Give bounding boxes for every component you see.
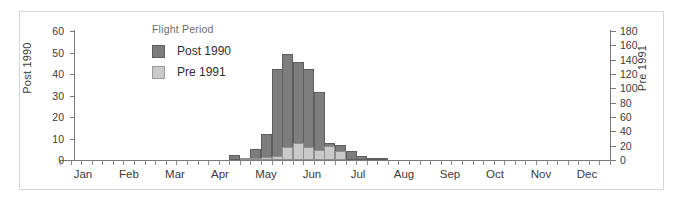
x-axis-tick xyxy=(599,161,600,165)
x-axis-tick xyxy=(557,161,558,165)
legend-item-post-1990[interactable]: Post 1990 xyxy=(152,44,231,58)
x-axis-tick xyxy=(81,161,82,165)
x-axis-tick xyxy=(92,161,93,165)
bar-post-week-20 xyxy=(261,134,272,160)
x-axis-tick xyxy=(536,161,537,165)
x-axis-tick-label: Aug xyxy=(384,168,424,180)
y-axis-left-title: Post 1990 xyxy=(21,23,33,113)
y-axis-right-tick xyxy=(611,60,616,61)
legend-swatch-post-1990 xyxy=(152,45,165,58)
x-axis-tick xyxy=(198,161,199,165)
y-axis-left-tick-label: 30 xyxy=(38,91,64,101)
x-axis-tick-label: Jan xyxy=(63,168,103,180)
x-axis-tick xyxy=(346,161,347,165)
bar-post-week-21 xyxy=(272,69,283,160)
x-axis-tick xyxy=(377,161,378,165)
y-axis-right-tick-label: 100 xyxy=(620,83,650,93)
bar-pre-week-23 xyxy=(293,143,304,160)
x-axis-tick-label: Dec xyxy=(567,168,607,180)
x-axis-tick xyxy=(123,161,124,165)
y-axis-left-tick-label: 20 xyxy=(38,112,64,122)
bar-post-week-17 xyxy=(229,155,240,160)
bar-pre-week-22 xyxy=(282,147,293,160)
x-axis-tick xyxy=(335,161,336,165)
bar-post-week-29 xyxy=(356,156,367,160)
bar-post-week-22 xyxy=(282,54,293,160)
x-axis-tick xyxy=(113,161,114,165)
x-axis-tick-label: Apr xyxy=(200,168,240,180)
x-axis-tick xyxy=(60,161,61,165)
x-axis-tick xyxy=(578,161,579,165)
y-axis-right-tick xyxy=(611,31,616,32)
x-axis-tick xyxy=(240,161,241,165)
x-axis-tick xyxy=(176,161,177,165)
x-axis-tick xyxy=(155,161,156,165)
x-axis-tick xyxy=(441,161,442,165)
bar-pre-week-24 xyxy=(303,147,314,160)
x-axis-tick xyxy=(208,161,209,165)
x-axis-tick-label: Nov xyxy=(521,168,561,180)
y-axis-right-tick-label: 40 xyxy=(620,126,650,136)
y-axis-right-tick xyxy=(611,131,616,132)
bar-pre-week-25 xyxy=(314,150,325,160)
chart-figure: Post 1990 Pre 1991 0102030405060 0204060… xyxy=(0,0,685,202)
legend-item-pre-1991[interactable]: Pre 1991 xyxy=(152,65,231,79)
bar-pre-week-21 xyxy=(272,156,283,160)
x-axis-tick-label: Oct xyxy=(475,168,515,180)
bar-pre-week-27 xyxy=(335,151,346,160)
y-axis-right-tick xyxy=(611,146,616,147)
legend-swatch-pre-1991 xyxy=(152,66,165,79)
x-axis-tick xyxy=(420,161,421,165)
y-axis-right-tick xyxy=(611,103,616,104)
legend-label-pre-1991: Pre 1991 xyxy=(177,65,226,79)
x-axis-tick xyxy=(547,161,548,165)
bar-pre-week-18 xyxy=(240,158,251,160)
x-axis-tick xyxy=(282,161,283,165)
x-axis-tick xyxy=(229,161,230,165)
x-axis-tick xyxy=(398,161,399,165)
y-axis-right-tick xyxy=(611,45,616,46)
y-axis-right-tick xyxy=(611,117,616,118)
x-axis-tick xyxy=(293,161,294,165)
x-axis-tick-label: Mar xyxy=(155,168,195,180)
y-axis-right-tick-label: 120 xyxy=(620,69,650,79)
x-axis-tick-label: Sep xyxy=(430,168,470,180)
x-axis-tick xyxy=(145,161,146,165)
x-axis-tick xyxy=(504,161,505,165)
x-axis-tick-label: May xyxy=(246,168,286,180)
x-axis-tick xyxy=(219,161,220,165)
y-axis-right-tick-label: 0 xyxy=(620,155,650,165)
y-axis-right-tick-label: 80 xyxy=(620,98,650,108)
x-axis-tick xyxy=(483,161,484,165)
y-axis-right-tick-label: 20 xyxy=(620,141,650,151)
chart-legend: Flight Period Post 1990 Pre 1991 xyxy=(152,23,231,86)
legend-title: Flight Period xyxy=(152,23,231,35)
bar-pre-week-20 xyxy=(261,157,272,160)
y-axis-right-tick xyxy=(611,74,616,75)
x-axis-tick-label: Jul xyxy=(338,168,378,180)
x-axis-tick xyxy=(409,161,410,165)
x-axis-tick xyxy=(568,161,569,165)
y-axis-left-tick-label: 60 xyxy=(38,26,64,36)
y-axis-right-line xyxy=(610,30,611,161)
x-axis-tick xyxy=(187,161,188,165)
bar-post-week-28 xyxy=(346,151,357,160)
x-axis-tick xyxy=(610,161,611,165)
x-axis-tick xyxy=(314,161,315,165)
x-axis-tick xyxy=(473,161,474,165)
x-axis-tick xyxy=(303,161,304,165)
y-axis-right-tick xyxy=(611,88,616,89)
x-axis-tick xyxy=(261,161,262,165)
y-axis-right-tick-label: 180 xyxy=(620,26,650,36)
bar-post-week-30 xyxy=(367,158,378,160)
bar-pre-week-19 xyxy=(250,158,261,160)
x-axis-tick xyxy=(166,161,167,165)
legend-label-post-1990: Post 1990 xyxy=(177,44,231,58)
x-axis-tick xyxy=(589,161,590,165)
x-axis-tick xyxy=(430,161,431,165)
x-axis-tick xyxy=(71,161,72,165)
x-axis-tick xyxy=(250,161,251,165)
x-axis-tick xyxy=(367,161,368,165)
x-axis-tick xyxy=(272,161,273,165)
x-axis-tick xyxy=(462,161,463,165)
